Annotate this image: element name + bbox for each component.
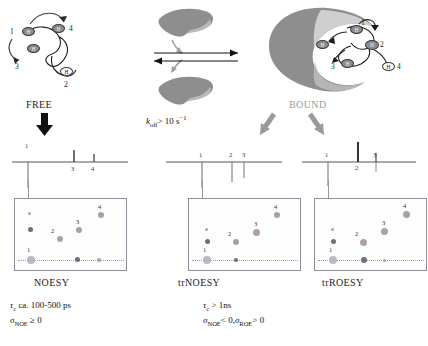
free-sigma-subscript: NOE bbox=[14, 320, 27, 327]
free-conditions-annotation: τc ca. 100-500 ps σNOE ≥ 0 bbox=[10, 300, 71, 327]
bound-tau-value: > 1ns bbox=[211, 300, 231, 310]
noesy-diag-peak-3 bbox=[97, 258, 101, 262]
trnoesy-trace-label-2: 2 bbox=[229, 151, 232, 158]
bound-state-diagram: H H H H H 1 2 3 4 bbox=[255, 2, 425, 97]
bound-number-4: 4 bbox=[397, 62, 401, 71]
trnoesy-peak-left-b bbox=[205, 228, 208, 231]
noesy-peak-label-3: 3 bbox=[76, 218, 79, 225]
protein-shape-top bbox=[159, 9, 214, 37]
free-tau-line: τc ca. 100-500 ps bbox=[10, 300, 71, 312]
noesy-trace-label-3: 3 bbox=[71, 165, 74, 172]
trroesy-peak-2 bbox=[360, 239, 367, 246]
trnoesy-peak-4 bbox=[274, 212, 280, 218]
trnoesy-trace-label-3: 3 bbox=[242, 151, 245, 158]
free-proton-h3: H bbox=[27, 44, 40, 53]
koff-superscript: −1 bbox=[180, 114, 187, 121]
trroesy-caption: trROESY bbox=[322, 277, 364, 288]
trnoesy-peak-label-1: 1 bbox=[203, 246, 206, 253]
trnoesy-peak-label-4: 4 bbox=[274, 203, 277, 210]
noesy-2d-panel: 4 3 2 1 bbox=[14, 198, 127, 271]
noesy-peak-label-1: 1 bbox=[27, 246, 30, 253]
noesy-peak-4 bbox=[98, 212, 104, 218]
trroesy-1d-trace bbox=[298, 140, 428, 188]
trroesy-peak-3 bbox=[381, 228, 388, 235]
trnoesy-peak-3 bbox=[253, 229, 260, 236]
free-proton-h1: H bbox=[22, 27, 35, 36]
bound-proton-h4: H bbox=[382, 62, 395, 71]
protein-receptor-shape bbox=[269, 8, 373, 92]
bound-sigma-noe-subscript: NOE bbox=[207, 320, 220, 327]
bound-sigma-line: σNOE< 0,σROE> 0 bbox=[203, 315, 264, 327]
koff-equation: koff> 10 s−1 bbox=[146, 114, 186, 128]
trroesy-peak-label-2: 2 bbox=[355, 230, 358, 237]
bound-proton-h3: H bbox=[341, 59, 354, 68]
exchange-diagram bbox=[150, 2, 245, 107]
free-noe-arrow-left bbox=[9, 39, 19, 60]
bound-number-3: 3 bbox=[331, 62, 335, 71]
noesy-peak-label-4: 4 bbox=[98, 203, 101, 210]
trnoesy-2d-panel: 4 3 2 1 bbox=[188, 198, 301, 271]
protein-shape-bottom bbox=[159, 77, 214, 105]
trnoesy-diag-peak-1 bbox=[203, 256, 211, 264]
free-state-diagram: H H H H 1 3 4 2 bbox=[0, 2, 125, 97]
trroesy-panel-group: 1 2 3 4 3 2 1 bbox=[298, 140, 428, 275]
free-noe-arrow-top bbox=[30, 13, 64, 24]
trroesy-diag-peak-1 bbox=[329, 256, 337, 264]
trnoesy-peak-2 bbox=[233, 239, 239, 245]
trroesy-trace-label-1: 1 bbox=[325, 151, 328, 158]
noesy-panel-group: 1 3 4 4 3 2 1 bbox=[10, 140, 140, 275]
noesy-diag-peak-2 bbox=[75, 257, 80, 262]
trnoesy-panel-group: 1 2 3 4 3 2 1 bbox=[158, 140, 288, 275]
trnoesy-trace-label-1: 1 bbox=[199, 151, 202, 158]
bound-proton-h2: H bbox=[365, 40, 379, 50]
free-tau-value: ca. 100-500 ps bbox=[18, 300, 71, 310]
trnoesy-connector-line bbox=[202, 180, 203, 198]
noesy-peak-2 bbox=[57, 236, 63, 242]
free-proton-h4: H bbox=[52, 24, 65, 33]
trnoesy-peak-label-3: 3 bbox=[254, 220, 257, 227]
bound-sigma-roe-value: > 0 bbox=[252, 315, 264, 325]
noesy-peak-left-a bbox=[28, 227, 33, 232]
trroesy-diag-peak-3 bbox=[383, 259, 386, 262]
trroesy-trace-label-3: 3 bbox=[373, 151, 376, 158]
trnoesy-diag-peak-2 bbox=[234, 258, 238, 262]
bound-tau-subscript: c bbox=[206, 305, 209, 312]
free-sigma-line: σNOE ≥ 0 bbox=[10, 315, 71, 327]
trroesy-peak-4 bbox=[403, 211, 410, 218]
bound-tau-line: τc > 1ns bbox=[203, 300, 264, 312]
bound-to-spectra-arrows bbox=[258, 112, 378, 138]
trroesy-peak-label-4: 4 bbox=[403, 202, 406, 209]
noesy-trace-label-4: 4 bbox=[91, 165, 94, 172]
bound-sigma-noe-value: < 0, bbox=[221, 315, 235, 325]
noesy-peak-label-2: 2 bbox=[51, 227, 54, 234]
bound-number-2: 2 bbox=[380, 40, 384, 49]
trnoesy-caption: trNOESY bbox=[178, 277, 220, 288]
trnoesy-peak-label-2: 2 bbox=[228, 230, 231, 237]
koff-rest: > 10 s bbox=[157, 116, 179, 126]
noesy-diag-peak-1 bbox=[27, 256, 35, 264]
bound-number-1: 1 bbox=[361, 18, 365, 27]
trroesy-diag-peak-2 bbox=[361, 257, 367, 263]
trnoesy-peak-left-a bbox=[205, 239, 210, 244]
noesy-caption: NOESY bbox=[34, 277, 69, 288]
equilibrium-arrows bbox=[154, 50, 238, 65]
trroesy-peak-label-3: 3 bbox=[382, 219, 385, 226]
trnoesy-1d-trace bbox=[158, 140, 288, 188]
trroesy-connector-line bbox=[328, 180, 329, 198]
free-number-4: 4 bbox=[69, 24, 73, 33]
bound-conditions-annotation: τc > 1ns σNOE< 0,σROE> 0 bbox=[203, 300, 264, 327]
free-number-1: 1 bbox=[10, 27, 14, 36]
trroesy-peak-left-a bbox=[331, 239, 336, 244]
bound-proton-surface: H bbox=[316, 40, 329, 49]
free-sigma-value: ≥ 0 bbox=[30, 315, 42, 325]
free-to-spectrum-arrow bbox=[34, 113, 56, 137]
noesy-1d-trace bbox=[10, 140, 140, 188]
free-proton-h2: H bbox=[60, 67, 73, 76]
noesy-peak-3 bbox=[76, 227, 82, 233]
noesy-peak-left-b bbox=[28, 212, 31, 215]
free-number-2: 2 bbox=[64, 80, 68, 89]
free-label: FREE bbox=[26, 99, 52, 110]
trroesy-peak-label-1: 1 bbox=[329, 246, 332, 253]
bound-label: BOUND bbox=[289, 99, 327, 110]
bound-arrow-left bbox=[260, 114, 274, 135]
